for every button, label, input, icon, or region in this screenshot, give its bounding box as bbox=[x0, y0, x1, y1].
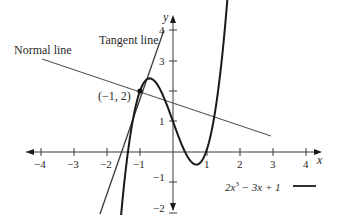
y-axis-down-arrow-icon bbox=[170, 203, 176, 211]
x-axis bbox=[26, 148, 322, 156]
legend-label: 2x3 − 3x + 1 bbox=[225, 181, 281, 193]
x-tick-label: −1 bbox=[133, 159, 145, 170]
x-axis-left-arrow-icon bbox=[26, 149, 34, 155]
y-tick-label: 3 bbox=[159, 56, 165, 67]
x-tick-label: 1 bbox=[204, 159, 210, 170]
y-tick-label: 4 bbox=[159, 25, 165, 36]
normal-line-label: Normal line bbox=[14, 44, 72, 56]
x-tick-label: −2 bbox=[100, 159, 112, 170]
x-tick-label: 2 bbox=[237, 159, 243, 170]
tangent-point-marker bbox=[137, 88, 142, 93]
x-tick-label: 3 bbox=[270, 159, 276, 170]
y-tick-label: −1 bbox=[153, 172, 165, 183]
y-tick-label: 1 bbox=[159, 116, 165, 127]
x-axis-label: x bbox=[317, 154, 322, 166]
y-axis-up-arrow-icon bbox=[170, 15, 176, 23]
plot-canvas bbox=[0, 0, 337, 215]
point-label: (−1, 2) bbox=[98, 90, 131, 102]
y-axis-label: y bbox=[163, 11, 168, 23]
x-tick-label: −3 bbox=[67, 159, 79, 170]
tangent-line-label: Tangent line bbox=[99, 34, 158, 46]
x-tick-label: −4 bbox=[34, 159, 46, 170]
x-tick-label: 4 bbox=[303, 159, 309, 170]
legend-text-prefix: 2x bbox=[225, 181, 235, 193]
normal-line bbox=[42, 59, 271, 136]
legend-text-suffix: − 3x + 1 bbox=[239, 181, 281, 193]
y-tick-label: −2 bbox=[153, 203, 165, 214]
